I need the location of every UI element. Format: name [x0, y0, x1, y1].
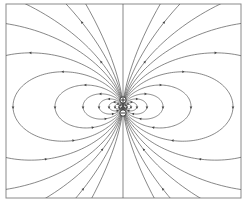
field-line — [0, 53, 123, 160]
field-direction-arrow-icon — [61, 70, 63, 73]
field-direction-arrow-icon — [131, 101, 133, 104]
field-lines — [0, 0, 248, 213]
field-direction-arrow-icon — [215, 52, 217, 55]
field-direction-arrow-icon — [0, 189, 1, 192]
field-direction-arrow-icon — [146, 106, 149, 108]
field-direction-arrow-icon — [136, 98, 138, 101]
field-line — [123, 94, 163, 119]
field-direction-arrow-icon — [12, 106, 15, 108]
field-direction-arrow-icon — [29, 52, 31, 55]
field-line — [83, 94, 123, 119]
dipole-field-diagram — [0, 0, 248, 213]
field-direction-arrow-icon — [99, 93, 101, 96]
field-direction-arrow-icon — [145, 93, 147, 96]
field-line — [123, 72, 233, 141]
field-line — [0, 0, 123, 213]
field-line — [123, 0, 248, 213]
field-direction-arrow-icon — [245, 189, 248, 192]
field-line — [123, 53, 248, 160]
field-direction-arrow-icon — [182, 70, 184, 73]
field-line — [123, 85, 191, 128]
field-direction-arrow-icon — [98, 106, 101, 108]
field-direction-arrow-icon — [108, 98, 110, 101]
field-direction-arrow-icon — [162, 106, 165, 108]
field-direction-arrow-icon — [116, 103, 118, 106]
field-line — [123, 0, 248, 213]
field-direction-arrow-icon — [232, 106, 235, 108]
field-line — [123, 21, 248, 191]
field-line — [0, 0, 123, 213]
field-direction-arrow-icon — [190, 106, 193, 108]
field-direction-arrow-icon — [127, 103, 129, 106]
field-direction-arrow-icon — [113, 101, 115, 104]
field-line — [0, 21, 123, 191]
field-line-canvas — [0, 0, 248, 213]
field-line — [13, 72, 123, 141]
field-line — [123, 0, 248, 213]
field-direction-arrow-icon — [84, 84, 86, 87]
positive-charge-icon — [120, 97, 126, 103]
field-direction-arrow-icon — [82, 106, 85, 108]
negative-charge-icon — [120, 110, 126, 116]
field-direction-arrow-icon — [160, 84, 162, 87]
field-line — [0, 0, 123, 213]
field-line — [55, 85, 123, 128]
field-direction-arrow-icon — [54, 106, 57, 108]
